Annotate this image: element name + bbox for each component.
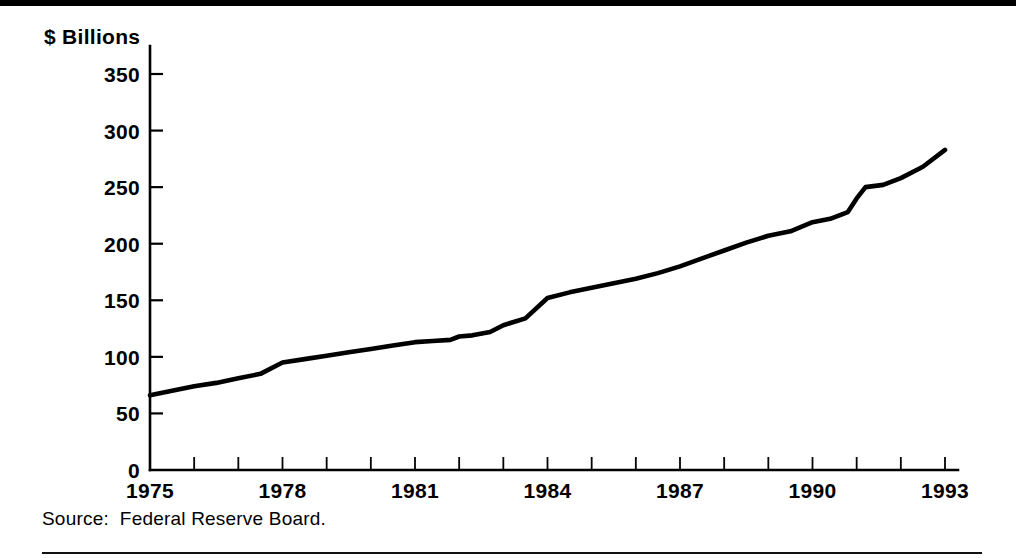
- line-chart: [0, 0, 1016, 500]
- y-axis-tick-label: 50: [54, 403, 140, 424]
- chart-plot-area: $ Billions 050100150200250300350 1975197…: [0, 0, 1016, 500]
- data-series-line: [150, 150, 945, 396]
- x-axis-tick-label: 1984: [503, 480, 593, 501]
- x-axis-tick-label: 1978: [238, 480, 328, 501]
- y-axis-tick-label: 200: [54, 234, 140, 255]
- y-axis-tick-label: 0: [54, 460, 140, 481]
- source-note: Source: Federal Reserve Board.: [42, 508, 326, 530]
- y-axis-tick-label: 150: [54, 290, 140, 311]
- bottom-divider-rule: [42, 552, 982, 554]
- y-axis-ticks: [150, 74, 163, 413]
- chart-axes: [150, 46, 958, 470]
- x-axis-tick-label: 1975: [105, 480, 195, 501]
- x-axis-tick-label: 1987: [635, 480, 725, 501]
- data-series-group: [150, 150, 945, 396]
- x-axis-tick-label: 1993: [900, 480, 990, 501]
- y-axis-tick-label: 300: [54, 121, 140, 142]
- y-axis-tick-label: 250: [54, 177, 140, 198]
- y-axis-tick-label: 100: [54, 347, 140, 368]
- x-axis-ticks: [150, 457, 945, 470]
- x-axis-tick-label: 1981: [370, 480, 460, 501]
- x-axis-tick-label: 1990: [768, 480, 858, 501]
- y-axis-tick-label: 350: [54, 64, 140, 85]
- figure-container: $ Billions 050100150200250300350 1975197…: [0, 0, 1016, 559]
